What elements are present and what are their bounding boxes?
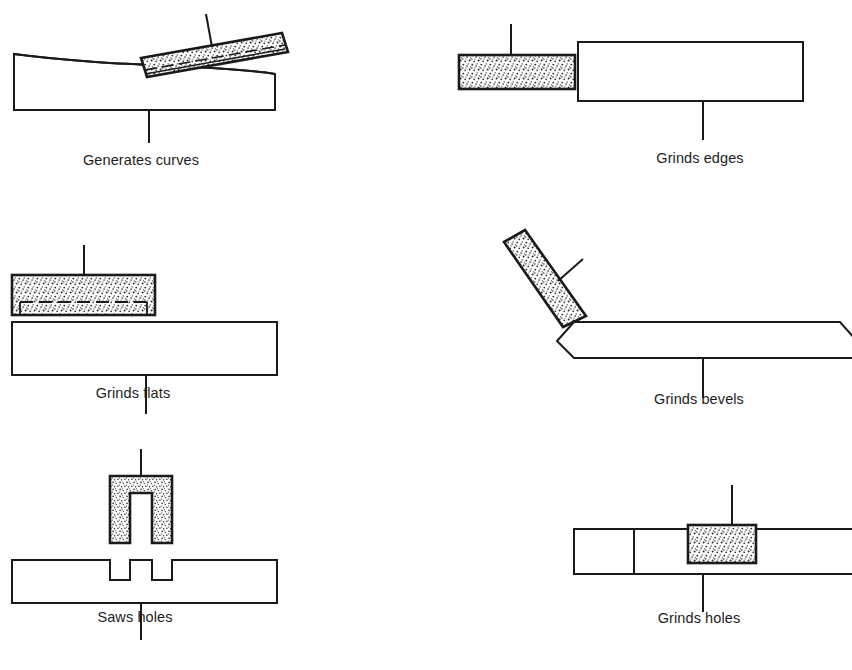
panel-label-grinds-bevels: Grinds bevels — [486, 391, 852, 407]
grinds-edges-illustration — [426, 0, 852, 223]
workpiece-bar — [12, 322, 277, 375]
grinds-flats-illustration — [0, 223, 426, 446]
panel-label-grinds-edges: Grinds edges — [487, 150, 852, 166]
panel-label-grinds-holes: Grinds holes — [486, 610, 852, 626]
grinds-holes-illustration — [426, 446, 852, 669]
workpiece-beveled-bar — [557, 322, 852, 358]
panel-grinds-holes: Grinds holes — [426, 446, 852, 669]
abrasive-tool-plug — [688, 525, 756, 563]
panel-generates-curves: Generates curves — [0, 0, 426, 223]
saws-holes-illustration — [0, 446, 426, 669]
figure-sheet: Generates curves — [0, 0, 852, 670]
panel-grinds-bevels: Grinds bevels — [426, 223, 852, 446]
panel-label-generates-curves: Generates curves — [0, 152, 354, 168]
abrasive-tool-block — [12, 275, 155, 315]
saw-tool-u-shape — [110, 476, 172, 543]
workpiece-bar-with-slots — [12, 560, 277, 603]
tool-shank-line — [558, 259, 583, 281]
panel-grinds-flats: Grinds flats — [0, 223, 426, 446]
abrasive-tool-inclined — [504, 230, 586, 327]
panel-saws-holes: Saws holes — [0, 446, 426, 669]
grinds-bevels-illustration — [426, 223, 852, 446]
panel-label-grinds-flats: Grinds flats — [0, 385, 346, 401]
abrasive-tool-block — [459, 55, 575, 89]
panel-grinds-edges: Grinds edges — [426, 0, 852, 223]
tool-shank-line — [206, 14, 212, 47]
workpiece-bar — [578, 42, 803, 101]
panel-label-saws-holes: Saws holes — [0, 609, 348, 625]
generates-curves-illustration — [0, 0, 426, 223]
